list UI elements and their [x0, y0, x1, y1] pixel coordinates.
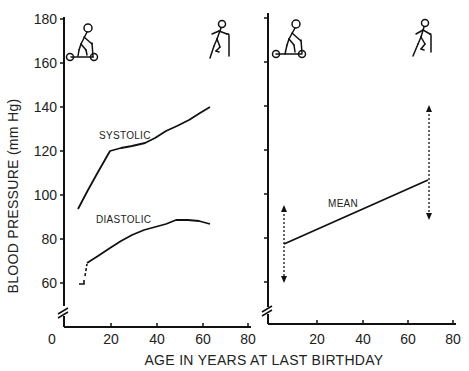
x-axis-title: AGE IN YEARS AT LAST BIRTHDAY	[144, 352, 383, 368]
systolic-label: SYSTOLIC	[99, 130, 151, 141]
y-tick-140: 140	[34, 99, 58, 115]
y-tick-120: 120	[34, 143, 58, 159]
child-scooter-icon-right	[273, 20, 306, 58]
y-axis-title: BLOOD PRESSURE (mm Hg)	[5, 99, 21, 294]
mean-line	[284, 180, 428, 244]
child-scooter-icon	[67, 24, 98, 61]
right-x-tick-60: 60	[400, 331, 416, 347]
x-tick-20: 20	[103, 331, 119, 347]
x-tick-40: 40	[149, 331, 165, 347]
x-tick-80: 80	[240, 331, 256, 347]
y-tick-180: 180	[34, 11, 58, 27]
diastolic-line	[87, 220, 210, 263]
x-tick-60: 60	[195, 331, 211, 347]
diastolic-dashed-segment	[85, 264, 87, 276]
y-tick-100: 100	[34, 187, 58, 203]
right-x-tick-40: 40	[355, 331, 371, 347]
elderly-cane-icon	[210, 21, 229, 59]
chart-canvas: 180 160 140 120 100 80 60 0 20 40 60 80 …	[0, 0, 469, 371]
y-tick-160: 160	[34, 55, 58, 71]
left-panel: 180 160 140 120 100 80 60 0 20 40 60 80 …	[34, 11, 256, 347]
right-panel: 20 40 60 80 MEAN	[262, 13, 461, 347]
diastolic-dashed-start	[79, 280, 84, 284]
right-x-tick-80: 80	[445, 331, 461, 347]
y-tick-80: 80	[41, 231, 57, 247]
systolic-line	[78, 107, 210, 209]
y-tick-60: 60	[41, 275, 57, 291]
old-range-arrow	[426, 105, 432, 220]
x-tick-0: 0	[48, 331, 56, 347]
diastolic-label: DIASTOLIC	[96, 214, 151, 225]
mean-label: MEAN	[328, 198, 358, 209]
right-x-tick-20: 20	[309, 331, 325, 347]
elderly-cane-icon-right	[413, 20, 431, 57]
